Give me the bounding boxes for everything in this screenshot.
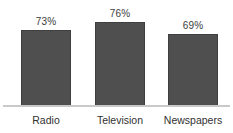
x-axis-line [3, 105, 230, 107]
category-label-newspapers: Newspapers [157, 114, 229, 127]
bar-value-label: 76% [95, 8, 145, 19]
bar-newspapers[interactable] [168, 34, 218, 106]
bar-group-television[interactable]: 76% [95, 0, 145, 106]
bar-group-newspapers[interactable]: 69% [168, 0, 218, 106]
bar-value-label: 73% [21, 16, 71, 27]
plot-area: 73% 76% 69% [0, 0, 233, 106]
bar-radio[interactable] [21, 30, 71, 106]
category-label-television: Television [85, 114, 155, 127]
bar-television[interactable] [95, 22, 145, 106]
bar-group-radio[interactable]: 73% [21, 0, 71, 106]
bar-value-label: 69% [168, 20, 218, 31]
category-axis: Radio Television Newspapers [0, 110, 233, 133]
bar-chart: 73% 76% 69% Radio Television Newspapers [0, 0, 233, 133]
category-label-radio: Radio [16, 114, 76, 127]
